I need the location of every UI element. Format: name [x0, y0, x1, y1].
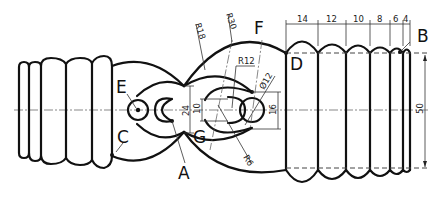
dim-8: 8: [377, 14, 382, 24]
dim-50: 50: [415, 103, 425, 114]
dim-10: 10: [353, 14, 364, 24]
dim-16: 16: [268, 104, 278, 115]
dim-6: 6: [393, 14, 398, 24]
label-a: A: [178, 163, 190, 183]
left-bellows: [19, 56, 112, 168]
label-r30: R30: [224, 12, 239, 31]
dim-24: 24: [181, 105, 191, 116]
dim-12: 12: [326, 14, 337, 24]
label-e: E: [116, 77, 127, 97]
dim-50-group: 50: [415, 55, 427, 167]
label-r6: R6: [241, 153, 255, 168]
right-bellows: [284, 42, 430, 183]
label-r12: R12: [238, 56, 255, 66]
technical-drawing: 14 12 10 8 6 4 50 24 10 16 R18 R30: [0, 0, 439, 197]
dim-14: 14: [297, 14, 308, 24]
label-g: G: [193, 127, 206, 147]
dim-4: 4: [403, 14, 408, 24]
dim-10: 10: [192, 103, 202, 114]
label-r18: R18: [193, 22, 208, 41]
label-b: B: [417, 26, 429, 46]
top-dimension-chain: 14 12 10 8 6 4: [286, 14, 410, 53]
point-labels: E C A G F D B: [116, 18, 429, 183]
label-f: F: [254, 18, 264, 38]
dim-16-group: 16: [252, 92, 281, 129]
label-d: D: [290, 54, 303, 74]
label-c: C: [117, 127, 129, 147]
